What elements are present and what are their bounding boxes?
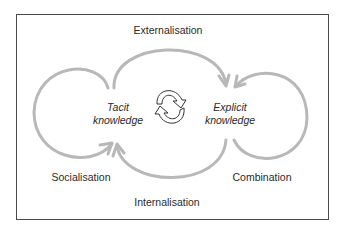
label-externalisation: Externalisation (134, 25, 203, 36)
label-internalisation: Internalisation (134, 197, 199, 208)
node-tacit-line2: knowledge (93, 114, 143, 127)
internalisation-arrow (117, 140, 226, 178)
label-combination: Combination (233, 172, 292, 183)
label-socialisation: Socialisation (52, 172, 111, 183)
node-tacit-knowledge: Tacit knowledge (93, 101, 143, 127)
node-explicit-line1: Explicit (205, 101, 255, 114)
cycle-arrows-icon (155, 91, 186, 124)
node-tacit-line1: Tacit (93, 101, 143, 114)
externalisation-arrow (114, 50, 226, 88)
node-explicit-line2: knowledge (205, 114, 255, 127)
node-explicit-knowledge: Explicit knowledge (205, 101, 255, 127)
